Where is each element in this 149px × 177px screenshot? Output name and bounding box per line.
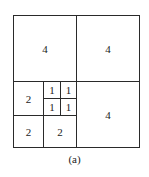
cell-label: 2 [26, 126, 32, 138]
cell-small-br: 1 [60, 98, 77, 116]
cell-bottom-right: 4 [76, 81, 140, 148]
cell-top-right: 4 [76, 15, 140, 82]
cell-small-bl: 1 [43, 98, 61, 116]
cell-label: 4 [42, 43, 48, 55]
cell-label: 4 [105, 43, 111, 55]
cell-bottom-mid: 2 [43, 115, 77, 148]
cell-label: 1 [66, 101, 72, 113]
cell-label: 2 [26, 93, 32, 105]
cell-label: 1 [49, 101, 55, 113]
cell-bottom-left: 2 [13, 115, 44, 148]
cell-top-left: 4 [13, 15, 77, 82]
cell-small-tr: 1 [60, 81, 77, 99]
cell-label: 1 [66, 84, 72, 96]
cell-small-tl: 1 [43, 81, 61, 99]
cell-label: 1 [49, 84, 55, 96]
cell-label: 2 [57, 126, 63, 138]
figure-caption: (a) [0, 153, 149, 165]
cell-label: 4 [105, 109, 111, 121]
cell-mid-left: 2 [13, 81, 44, 116]
